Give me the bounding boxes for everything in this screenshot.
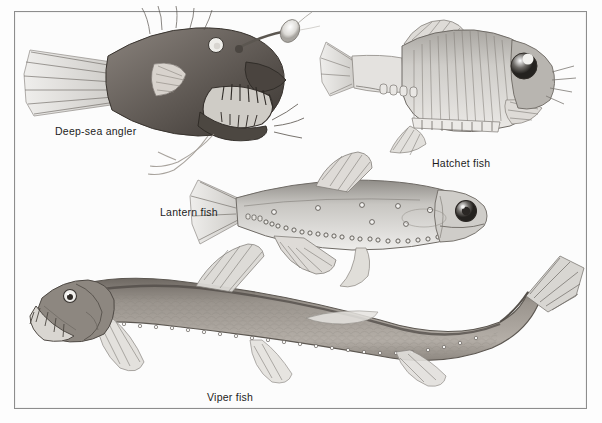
hatchet-anal-fin xyxy=(390,126,426,155)
deep-sea-angler-figure xyxy=(24,6,320,175)
hatchet-caudal-fin xyxy=(320,42,356,96)
label-lantern-fish: Lantern fish xyxy=(160,206,218,218)
illustration-plate: Deep-sea angler Hatchet fish Lantern fis… xyxy=(0,0,602,423)
angler-pelvic-filaments xyxy=(148,134,214,175)
viper-caudal-fin xyxy=(500,256,584,322)
viper-dorsal-fin xyxy=(196,244,264,292)
deep-sea-fish-artwork xyxy=(0,0,602,423)
angler-chin-filaments xyxy=(272,104,304,138)
lantern-pelvic-fin xyxy=(340,248,370,287)
viper-pelvic-fin xyxy=(250,340,292,383)
label-hatchet-fish: Hatchet fish xyxy=(432,157,490,169)
angler-caudal-fin xyxy=(24,50,118,116)
label-deep-sea-angler: Deep-sea angler xyxy=(55,125,136,137)
label-viper-fish: Viper fish xyxy=(207,391,253,403)
hatchet-fish-figure xyxy=(320,20,576,155)
